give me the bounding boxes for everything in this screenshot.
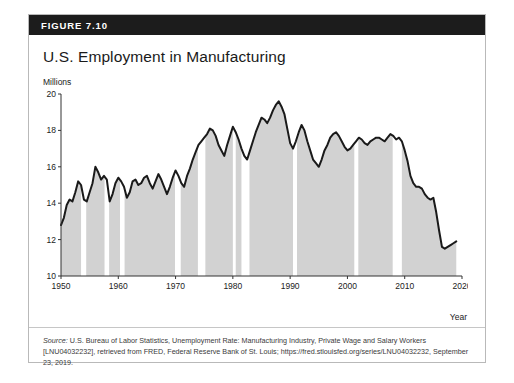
x-axis-tick-label: 2010	[395, 281, 414, 291]
x-axis-tick-label: 2000	[338, 281, 357, 291]
y-axis-tick-label: 18	[47, 125, 57, 135]
page-title: U.S. Employment in Manufacturing	[29, 35, 485, 66]
y-axis-units-label: Millions	[29, 66, 485, 87]
x-axis-tick-label: 1970	[166, 281, 185, 291]
recession-band	[198, 94, 205, 276]
recession-band	[233, 94, 236, 276]
recession-band	[241, 94, 249, 276]
x-axis-tick-label: 1950	[52, 281, 71, 291]
source-text: U.S. Bureau of Labor Statistics, Unemplo…	[43, 336, 468, 367]
source-note: Source: U.S. Bureau of Labor Statistics,…	[43, 335, 471, 368]
x-axis-tick-label: 2020	[453, 281, 468, 291]
x-axis-label: Year	[450, 312, 467, 322]
x-axis-tick-label: 1990	[281, 281, 300, 291]
chart-plot-area: 1012141618201950196019701980199020002010…	[43, 90, 468, 298]
recession-band	[175, 94, 181, 276]
y-axis-tick-label: 12	[47, 235, 57, 245]
y-axis-tick-label: 14	[47, 198, 57, 208]
y-axis-tick-label: 16	[47, 162, 57, 172]
source-divider	[29, 327, 485, 328]
y-axis-tick-label: 20	[47, 90, 57, 99]
recession-band	[393, 94, 402, 276]
x-axis-tick-label: 1960	[109, 281, 128, 291]
y-axis-tick-label: 10	[47, 271, 57, 281]
x-axis-tick-label: 1980	[223, 281, 242, 291]
source-label: Source:	[43, 336, 68, 345]
recession-band	[293, 94, 297, 276]
figure-number-label: FIGURE 7.10	[41, 20, 108, 31]
figure-header-bar: FIGURE 7.10	[29, 15, 485, 35]
employment-area-chart: 1012141618201950196019701980199020002010…	[43, 90, 468, 298]
recession-band	[354, 94, 358, 276]
figure-card: FIGURE 7.10 U.S. Employment in Manufactu…	[28, 14, 486, 363]
